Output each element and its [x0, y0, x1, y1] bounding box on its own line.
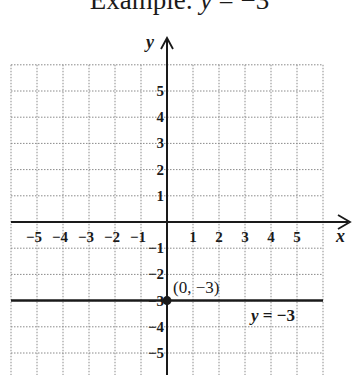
- y-tick-label: −1: [148, 240, 164, 256]
- x-tick-label: −5: [26, 229, 42, 245]
- x-axis-label: x: [335, 226, 345, 246]
- x-tick-label: −2: [104, 229, 120, 245]
- point-label: (0, −3): [173, 278, 219, 297]
- y-tick-label: 4: [157, 109, 165, 125]
- line-equation-label: y = −3: [249, 306, 295, 325]
- x-tick-label: 1: [189, 229, 197, 245]
- y-tick-label: −4: [148, 319, 165, 335]
- y-tick-label: 1: [157, 188, 165, 204]
- y-tick-label: 5: [157, 83, 165, 99]
- x-tick-label: −4: [52, 229, 69, 245]
- x-tick-label: −3: [78, 229, 94, 245]
- y-tick-label: 2: [157, 162, 165, 178]
- point-marker: [163, 296, 172, 305]
- coordinate-plane: xy−5−4−3−2−11234554321−1−2−3−4−5(0, −3)y…: [0, 0, 359, 375]
- y-tick-label: 3: [157, 135, 165, 151]
- y-tick-label: −5: [148, 345, 164, 361]
- x-tick-label: 5: [293, 229, 301, 245]
- y-tick-label: −2: [148, 266, 164, 282]
- y-axis-label: y: [144, 32, 155, 52]
- x-tick-label: 2: [215, 229, 223, 245]
- x-tick-label: 4: [267, 229, 275, 245]
- x-tick-label: 3: [241, 229, 249, 245]
- x-tick-label: −1: [130, 229, 146, 245]
